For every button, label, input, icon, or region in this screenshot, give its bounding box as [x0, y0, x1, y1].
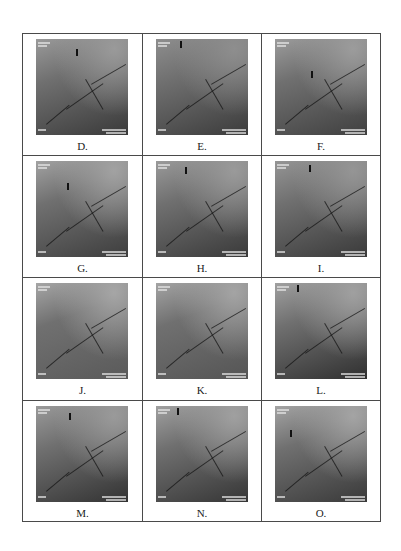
panel-label: D.: [23, 140, 142, 152]
angiogram-image: [275, 161, 367, 257]
panel-g: G.: [23, 156, 143, 278]
catheter-marker: [185, 167, 187, 174]
catheter-marker: [177, 408, 179, 415]
catheter-marker: [67, 183, 69, 190]
panel-label: H.: [143, 262, 261, 274]
angiogram-image: [36, 283, 128, 379]
angiogram-figure-table: D. E. F. G. H. I. J. K. L. M. N.: [22, 33, 381, 522]
angiogram-image: [156, 39, 248, 135]
panel-label: O.: [262, 507, 380, 519]
panel-label: F.: [262, 140, 380, 152]
catheter-marker: [311, 71, 313, 78]
catheter-marker: [180, 41, 182, 48]
panel-label: M.: [23, 507, 142, 519]
panel-label: J.: [23, 384, 142, 396]
panel-label: L.: [262, 384, 380, 396]
catheter-marker: [297, 285, 299, 292]
angiogram-image: [275, 283, 367, 379]
catheter-marker: [290, 430, 292, 437]
angiogram-image: [275, 39, 367, 135]
panel-k: K.: [143, 278, 262, 401]
panel-label: K.: [143, 384, 261, 396]
angiogram-image: [156, 161, 248, 257]
panel-label: I.: [262, 262, 380, 274]
panel-e: E.: [143, 34, 262, 156]
catheter-marker: [69, 413, 71, 420]
angiogram-image: [36, 406, 128, 502]
panel-d: D.: [23, 34, 143, 156]
angiogram-image: [275, 406, 367, 502]
panel-j: J.: [23, 278, 143, 401]
catheter-marker: [309, 165, 311, 172]
angiogram-image: [36, 161, 128, 257]
panel-label: G.: [23, 262, 142, 274]
panel-i: I.: [262, 156, 380, 278]
panel-o: O.: [262, 401, 380, 521]
panel-l: L.: [262, 278, 380, 401]
angiogram-image: [156, 283, 248, 379]
angiogram-image: [36, 39, 128, 135]
angiogram-image: [156, 406, 248, 502]
panel-label: N.: [143, 507, 261, 519]
panel-n: N.: [143, 401, 262, 521]
panel-f: F.: [262, 34, 380, 156]
panel-label: E.: [143, 140, 261, 152]
panel-h: H.: [143, 156, 262, 278]
panel-m: M.: [23, 401, 143, 521]
catheter-marker: [76, 49, 78, 56]
